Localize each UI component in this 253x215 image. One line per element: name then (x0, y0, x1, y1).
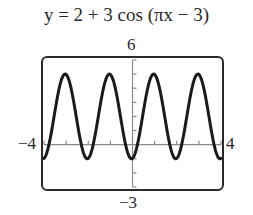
plot-area (0, 0, 253, 215)
